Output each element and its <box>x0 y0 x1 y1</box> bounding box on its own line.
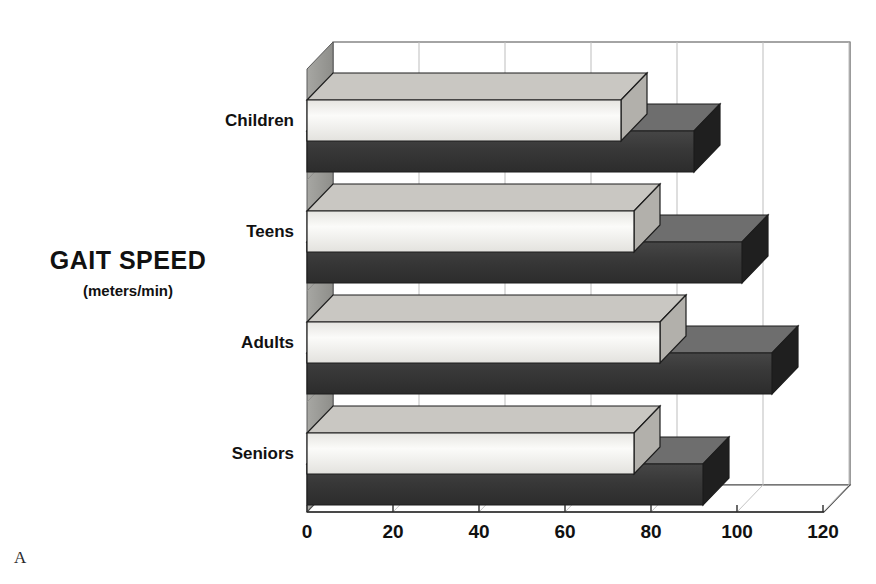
x-tick-0: 0 <box>302 521 313 543</box>
x-tick-60: 60 <box>554 521 575 543</box>
x-tick-100: 100 <box>721 521 753 543</box>
panel-letter: A <box>14 548 26 568</box>
x-axis-tick-labels: 0 20 40 60 80 100 120 <box>0 0 876 584</box>
x-tick-80: 80 <box>640 521 661 543</box>
x-tick-120: 120 <box>807 521 839 543</box>
gait-speed-figure: GAIT SPEED (meters/min) Children Teens A… <box>0 0 876 584</box>
x-tick-20: 20 <box>382 521 403 543</box>
x-tick-40: 40 <box>468 521 489 543</box>
